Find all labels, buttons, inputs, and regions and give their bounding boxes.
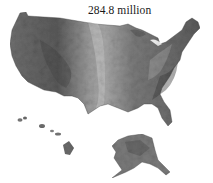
alaska <box>112 134 170 178</box>
us-relief-map <box>0 0 213 183</box>
map-canvas: 284.8 million <box>0 0 213 183</box>
contiguous-us <box>10 12 200 126</box>
population-label: 284.8 million <box>88 4 151 16</box>
hawaii <box>18 117 75 156</box>
